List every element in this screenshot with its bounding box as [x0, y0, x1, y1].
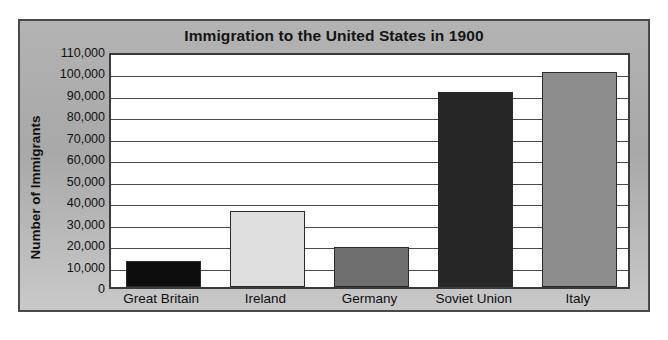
y-axis-tick-label: 90,000 — [67, 89, 105, 103]
plot-area — [109, 53, 630, 289]
y-axis-tick-label: 70,000 — [67, 132, 105, 146]
y-axis-tick-label: 30,000 — [67, 218, 105, 232]
y-axis-tick-label: 110,000 — [61, 46, 105, 60]
y-axis-title-label: Number of Immigrants — [28, 115, 43, 259]
x-axis-tick-labels: Great BritainIrelandGermanySoviet UnionI… — [109, 291, 630, 313]
y-axis-tick-label: 20,000 — [67, 239, 105, 253]
bars-group — [111, 55, 628, 287]
x-axis-tick-label: Ireland — [245, 291, 286, 306]
x-axis-tick-label: Great Britain — [123, 291, 199, 306]
y-axis-tick-label: 100,000 — [60, 67, 105, 81]
y-axis-tick-label: 10,000 — [67, 261, 105, 275]
y-axis-tick-label: 40,000 — [67, 196, 105, 210]
y-axis-tick-label: 80,000 — [67, 110, 105, 124]
y-axis-tick-labels: 010,00020,00030,00040,00050,00060,00070,… — [42, 53, 105, 289]
bar — [334, 247, 409, 287]
x-axis-tick-label: Germany — [342, 291, 398, 306]
chart-figure: Immigration to the United States in 1900… — [18, 19, 650, 312]
chart-title: Immigration to the United States in 1900 — [20, 27, 648, 45]
y-axis-tick-label: 60,000 — [67, 153, 105, 167]
y-axis-tick-label: 50,000 — [67, 175, 105, 189]
x-axis-tick-label: Soviet Union — [435, 291, 512, 306]
bar — [126, 261, 201, 287]
y-axis-tick-label: 0 — [98, 282, 105, 296]
bar — [542, 72, 617, 287]
x-axis-tick-label: Italy — [566, 291, 591, 306]
bar — [230, 211, 305, 287]
bar — [438, 92, 513, 287]
